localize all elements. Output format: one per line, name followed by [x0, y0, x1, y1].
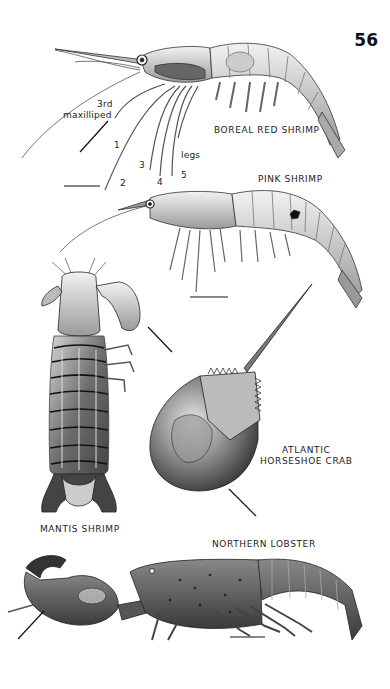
mantis-pointer-line — [148, 327, 172, 352]
horseshoe-crab-label-line1: ATLANTIC — [282, 445, 330, 455]
northern-lobster-label: NORTHERN LOBSTER — [212, 539, 316, 549]
boreal-red-shrimp-label: BOREAL RED SHRIMP — [214, 125, 320, 135]
leg-number-2: 2 — [120, 178, 126, 188]
maxilliped-label-line1: 3rd — [97, 99, 113, 109]
maxilliped-pointer-line — [80, 121, 108, 152]
leg-number-5: 5 — [181, 170, 187, 180]
maxilliped-label-line2: maxilliped — [63, 110, 112, 120]
leg-number-1: 1 — [114, 140, 120, 150]
northern-lobster-illustration — [8, 556, 362, 640]
mantis-shrimp-illustration — [42, 258, 140, 512]
mantis-shrimp-label: MANTIS SHRIMP — [40, 524, 120, 534]
leg-number-4: 4 — [157, 177, 163, 187]
illustration-plate — [0, 0, 390, 689]
leg-number-3: 3 — [139, 160, 145, 170]
crab-pointer-line — [229, 489, 256, 516]
legs-label: legs — [181, 150, 200, 160]
lobster-pointer-line — [18, 611, 44, 639]
horseshoe-crab-label-line2: HORSESHOE CRAB — [260, 456, 353, 466]
pink-shrimp-label: PINK SHRIMP — [258, 174, 323, 184]
